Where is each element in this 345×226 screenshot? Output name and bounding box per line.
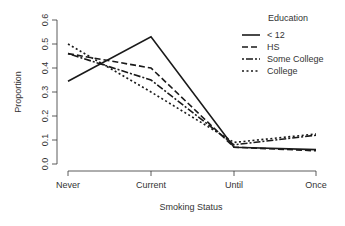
y-tick-label: 0.5 xyxy=(40,38,50,51)
legend: Education < 12HSSome CollegeCollege xyxy=(242,13,324,76)
y-tick-label: 0.4 xyxy=(40,62,50,75)
legend-label: HS xyxy=(267,42,280,52)
x-tick-label: Once xyxy=(305,180,327,190)
x-tick-label: Until xyxy=(225,180,243,190)
legend-title: Education xyxy=(268,13,308,23)
line-chart: 0.00.10.20.30.40.50.6 NeverCurrentUntilO… xyxy=(0,0,345,226)
y-axis: 0.00.10.20.30.40.50.6 xyxy=(40,14,57,171)
y-tick-label: 0.0 xyxy=(40,158,50,171)
y-tick-label: 0.6 xyxy=(40,14,50,27)
legend-label: < 12 xyxy=(267,30,285,40)
legend-label: Some College xyxy=(267,54,324,64)
x-axis: NeverCurrentUntilOnce xyxy=(56,171,327,190)
y-tick-label: 0.2 xyxy=(40,110,50,123)
x-tick-label: Current xyxy=(136,180,167,190)
x-axis-title: Smoking Status xyxy=(159,202,223,212)
legend-label: College xyxy=(267,66,298,76)
y-axis-title: Proportion xyxy=(13,71,23,113)
x-tick-label: Never xyxy=(56,180,80,190)
y-tick-label: 0.3 xyxy=(40,86,50,99)
y-tick-label: 0.1 xyxy=(40,134,50,147)
